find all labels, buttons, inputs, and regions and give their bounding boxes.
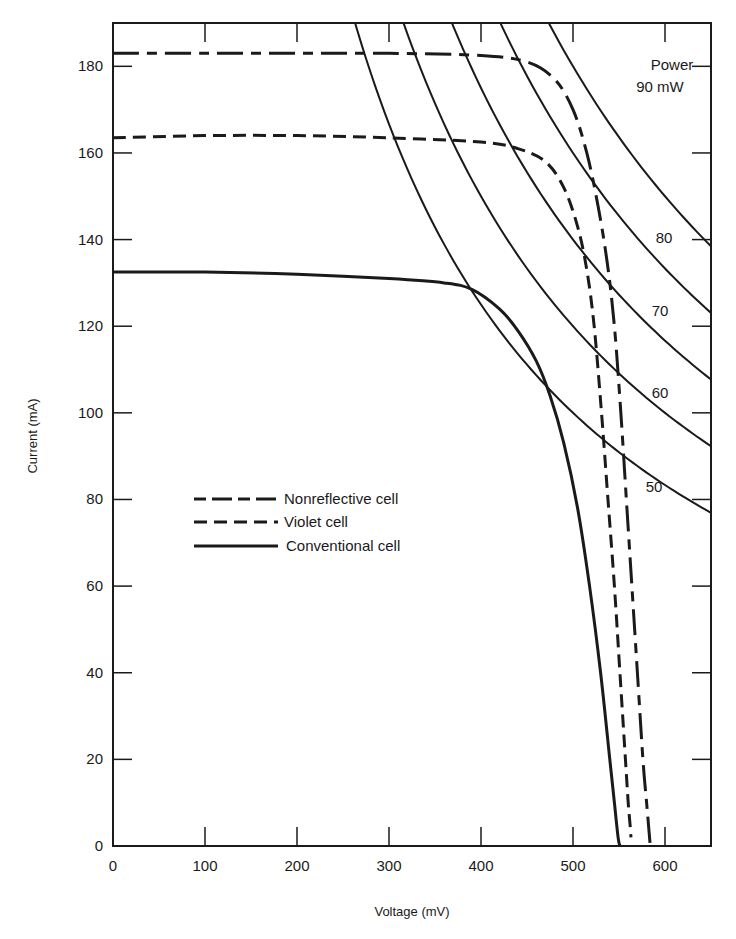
series-layer bbox=[113, 53, 650, 846]
iv-characteristics-chart: 0100200300400500600 02040608010012014016… bbox=[0, 0, 736, 939]
power-label: 80 bbox=[656, 229, 673, 246]
legend-label: Conventional cell bbox=[286, 537, 400, 554]
x-tick-label: 0 bbox=[109, 857, 117, 874]
power-label: 70 bbox=[652, 302, 669, 319]
y-tick-label: 140 bbox=[78, 231, 103, 248]
x-tick-label: 300 bbox=[376, 857, 401, 874]
series-conventional-cell bbox=[113, 272, 620, 846]
x-tick-label: 400 bbox=[468, 857, 493, 874]
y-tick-label: 100 bbox=[78, 404, 103, 421]
power-label: Power bbox=[651, 56, 694, 73]
power-label: 90 mW bbox=[636, 78, 684, 95]
power-curve-80mw bbox=[398, 0, 720, 321]
x-tick-label: 100 bbox=[192, 857, 217, 874]
power-label: 60 bbox=[652, 384, 669, 401]
plot-frame bbox=[113, 23, 711, 846]
x-axis-title: Voltage (mV) bbox=[374, 904, 449, 919]
power-label: 50 bbox=[646, 478, 663, 495]
y-tick-label: 40 bbox=[86, 664, 103, 681]
series-violet-cell bbox=[113, 135, 631, 837]
power-curve-90mw bbox=[435, 0, 720, 255]
y-tick-label: 180 bbox=[78, 57, 103, 74]
y-tick-label: 20 bbox=[86, 750, 103, 767]
y-tick-label: 160 bbox=[78, 144, 103, 161]
power-labels: Power90 mW80706050 bbox=[636, 56, 693, 495]
x-tick-label: 600 bbox=[652, 857, 677, 874]
y-tick-label: 80 bbox=[86, 490, 103, 507]
y-tick-label: 120 bbox=[78, 317, 103, 334]
x-axis: 0100200300400500600 bbox=[109, 23, 678, 874]
legend-label: Violet cell bbox=[284, 513, 348, 530]
y-axis: 020406080100120140160180 bbox=[78, 57, 711, 854]
y-tick-label: 60 bbox=[86, 577, 103, 594]
legend-label: Nonreflective cell bbox=[284, 490, 398, 507]
series-nonreflective-cell bbox=[113, 53, 650, 846]
x-tick-label: 200 bbox=[284, 857, 309, 874]
legend: Nonreflective cellViolet cellConventiona… bbox=[194, 490, 400, 554]
y-axis-title: Current (mA) bbox=[25, 398, 40, 473]
x-tick-label: 500 bbox=[560, 857, 585, 874]
y-tick-label: 0 bbox=[95, 837, 103, 854]
